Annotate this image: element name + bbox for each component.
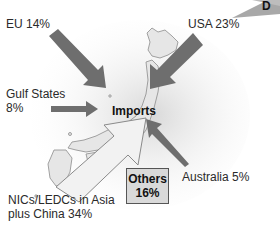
imports-center-label: Imports [112,104,156,118]
corner-badge-letter: D [262,0,271,13]
corner-badge-icon [232,0,280,18]
flow-label-eu: EU 14% [6,17,50,31]
flow-label-gulf-states: Gulf States 8% [6,87,65,115]
flow-label-asia: NICs/LEDCs in Asia plus China 34% [8,193,115,221]
imports-diagram: EU 14% USA 23% Gulf States 8% Australia … [0,0,280,227]
flow-label-australia: Australia 5% [182,170,249,184]
flow-label-usa: USA 23% [188,17,239,31]
others-percent: 16% [135,186,159,200]
others-box: Others 16% [126,168,169,204]
others-label: Others [128,172,167,186]
